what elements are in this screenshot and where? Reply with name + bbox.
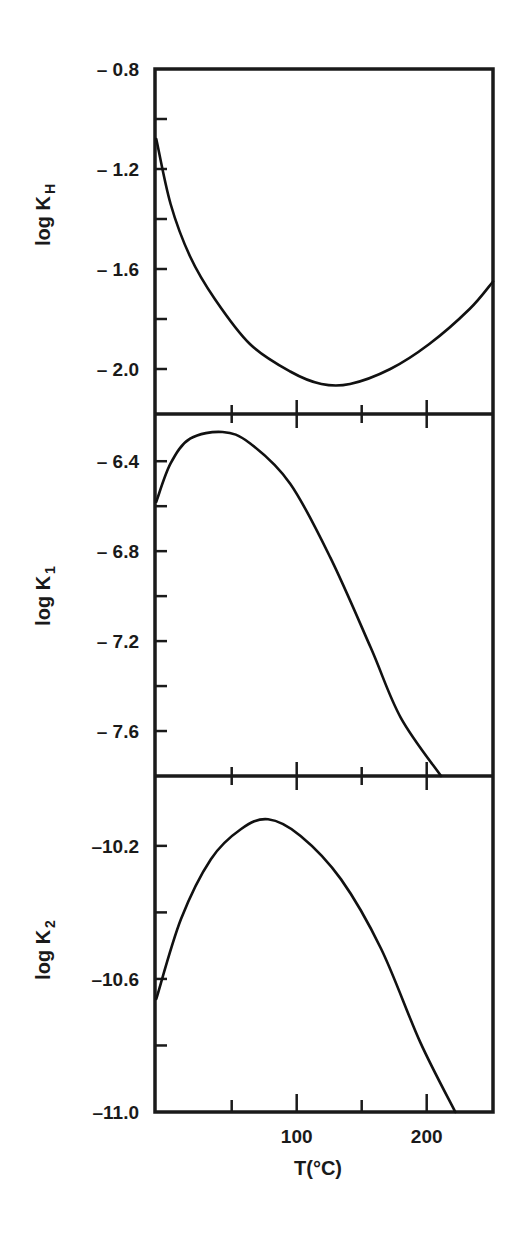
panel-log-kh: – 0.8– 1.2– 1.6– 2.0 log KH xyxy=(32,59,493,386)
y-tick-label: – 6.4 xyxy=(97,451,140,472)
y-tick-label: – 0.8 xyxy=(97,59,139,80)
y-tick-labels: –10.2–10.6–11.0 xyxy=(91,836,139,1123)
y-tick-labels: – 6.4– 6.8– 7.2– 7.6 xyxy=(97,451,140,742)
y-tick-label: –10.6 xyxy=(91,969,139,990)
y-tick-label: – 1.6 xyxy=(97,259,139,280)
x-ticks xyxy=(232,400,427,1112)
plot-border xyxy=(155,69,493,1112)
y-tick-label: – 7.2 xyxy=(97,631,139,652)
panel-log-k2: –10.2–10.6–11.0 log K2 xyxy=(32,819,455,1123)
x-tick-label: 100 xyxy=(281,1126,313,1147)
plot-frame xyxy=(155,69,493,1112)
y-tick-labels: – 0.8– 1.2– 1.6– 2.0 xyxy=(97,59,139,380)
y-ticks xyxy=(155,846,167,1046)
x-tick-labels: 100200 xyxy=(281,1126,443,1147)
x-tick-label: 200 xyxy=(411,1126,443,1147)
x-axis-title: T(°C) xyxy=(294,1157,342,1179)
y-tick-label: – 6.8 xyxy=(97,541,139,562)
y-tick-label: –11.0 xyxy=(93,1102,140,1123)
curve-log-kh xyxy=(156,139,493,386)
y-axis-title-k1: log K1 xyxy=(32,566,58,626)
y-tick-label: – 7.6 xyxy=(97,721,139,742)
panel-log-k1: – 6.4– 6.8– 7.2– 7.6 log K1 xyxy=(32,432,441,776)
y-axis-title-k2: log K2 xyxy=(32,920,58,980)
figure: – 0.8– 1.2– 1.6– 2.0 log KH – 6.4– 6.8– … xyxy=(0,0,528,1234)
y-tick-label: –10.2 xyxy=(91,836,139,857)
y-axis-title-kh: log KH xyxy=(32,184,58,246)
curve-log-k1 xyxy=(156,432,441,776)
y-tick-label: – 1.2 xyxy=(97,159,139,180)
curve-log-k2 xyxy=(156,819,455,1112)
y-tick-label: – 2.0 xyxy=(97,359,139,380)
